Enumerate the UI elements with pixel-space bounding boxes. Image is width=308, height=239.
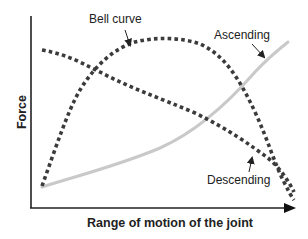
series-ascending <box>42 42 288 187</box>
annotation-bell-curve: Bell curve <box>89 12 142 26</box>
descending-pointer-arrow <box>249 158 252 172</box>
annotation-descending: Descending <box>207 173 270 187</box>
y-axis-label: Force <box>15 95 29 129</box>
bell-curve-pointer-arrow <box>125 30 130 45</box>
ascending-pointer-arrow <box>252 44 264 57</box>
annotation-ascending: Ascending <box>214 28 270 42</box>
x-axis-label: Range of motion of the joint <box>0 216 308 230</box>
